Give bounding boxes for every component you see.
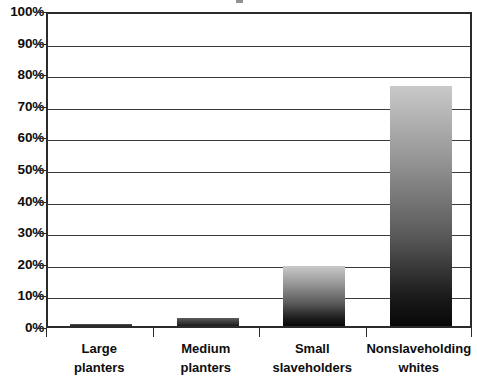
- plot-area: [46, 12, 472, 328]
- x-axis-ticks: [46, 328, 472, 337]
- y-axis-tick-mark: [38, 202, 46, 203]
- y-axis-tick-mark: [38, 138, 46, 139]
- y-axis-tick-mark: [38, 44, 46, 45]
- x-axis-tick-mark: [46, 328, 47, 337]
- x-axis-tick-mark: [259, 328, 260, 337]
- y-axis-tick-mark: [38, 12, 46, 13]
- y-axis-tick-mark: [38, 170, 46, 171]
- x-axis-category-label-line2: whites: [366, 359, 473, 378]
- x-axis-tick-mark: [471, 328, 472, 337]
- x-axis-category-label-line2: planters: [46, 359, 153, 378]
- x-axis-category-label: Mediumplanters: [153, 340, 260, 378]
- gridline: [48, 77, 470, 78]
- cropped-title-remnant: [236, 0, 243, 3]
- x-axis-category-label: Nonslaveholdingwhites: [366, 340, 473, 378]
- y-axis-tick-mark: [38, 328, 46, 329]
- bar: [283, 266, 345, 326]
- gridline: [48, 46, 470, 47]
- bar: [70, 324, 132, 327]
- y-axis-tick-mark: [38, 296, 46, 297]
- y-axis-tick-mark: [38, 75, 46, 76]
- x-axis-category-label-line2: slaveholders: [259, 359, 366, 378]
- y-axis-tick-mark: [38, 233, 46, 234]
- bar: [390, 86, 452, 326]
- x-axis-category-label-line2: planters: [153, 359, 260, 378]
- y-axis-tick-mark: [38, 107, 46, 108]
- x-axis-labels: LargeplantersMediumplantersSmallslavehol…: [46, 340, 472, 386]
- bar: [177, 318, 239, 326]
- x-axis-category-label-line1: Nonslaveholding: [366, 340, 473, 359]
- x-axis-category-label-line1: Small: [259, 340, 366, 359]
- x-axis-tick-mark: [153, 328, 154, 337]
- bar-chart: 0%10%20%30%40%50%60%70%80%90%100% Largep…: [0, 0, 477, 386]
- x-axis-category-label-line1: Medium: [153, 340, 260, 359]
- y-axis-ticks: [38, 12, 46, 328]
- x-axis-tick-mark: [366, 328, 367, 337]
- x-axis-category-label-line1: Large: [46, 340, 153, 359]
- x-axis-category-label: Largeplanters: [46, 340, 153, 378]
- x-axis-category-label: Smallslaveholders: [259, 340, 366, 378]
- y-axis-tick-mark: [38, 265, 46, 266]
